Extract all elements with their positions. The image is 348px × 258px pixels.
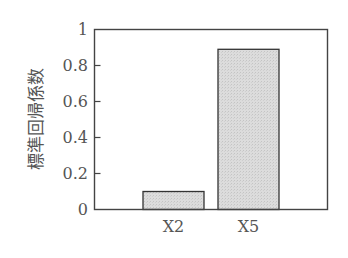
bar-x2 bbox=[143, 192, 204, 210]
y-tick-label: 0.6 bbox=[63, 92, 88, 111]
y-tick-marks bbox=[95, 66, 101, 174]
y-tick-label: 1 bbox=[78, 20, 88, 39]
y-tick-label: 0 bbox=[78, 200, 88, 219]
x-category-label-x2: X2 bbox=[163, 217, 185, 236]
bar-chart: 標準回帰係数 00.20.40.60.81 X2X5 bbox=[0, 0, 348, 258]
y-tick-label: 0.8 bbox=[63, 56, 88, 75]
bar-x5 bbox=[218, 49, 279, 209]
y-axis-title: 標準回帰係数 bbox=[26, 68, 46, 170]
y-tick-label: 0.4 bbox=[63, 128, 88, 147]
x-category-labels: X2X5 bbox=[163, 217, 260, 236]
y-tick-label: 0.2 bbox=[63, 164, 88, 183]
bars bbox=[143, 49, 279, 209]
plot-frame bbox=[95, 30, 328, 210]
y-tick-labels: 00.20.40.60.81 bbox=[63, 20, 88, 219]
x-category-label-x5: X5 bbox=[238, 217, 260, 236]
